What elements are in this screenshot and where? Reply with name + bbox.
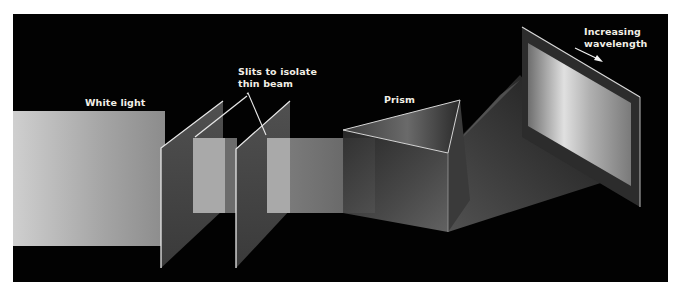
diagram-figure: White light Slits to isolate thin beam P… [0, 0, 691, 293]
slits-label: Slits to isolate thin beam [238, 66, 317, 90]
increasing-wavelength-arrow-icon [575, 48, 603, 62]
slits-pointer-lines [247, 93, 266, 135]
white-light-label: White light [85, 97, 146, 109]
slits-label-line-2: thin beam [238, 78, 317, 90]
wavelength-label: Increasing wavelength [584, 26, 647, 50]
thin-beam-segment-1 [193, 138, 225, 213]
wavelength-label-line-1: Increasing [584, 26, 647, 38]
thin-beam-segment-4 [290, 138, 344, 213]
prism-label: Prism [384, 94, 415, 106]
thin-beam-segment-3 [267, 138, 290, 213]
white-light-beam [13, 111, 165, 246]
wavelength-label-line-2: wavelength [584, 38, 647, 50]
slits-label-line-1: Slits to isolate [238, 66, 317, 78]
thin-beam-segment-2 [225, 138, 237, 213]
